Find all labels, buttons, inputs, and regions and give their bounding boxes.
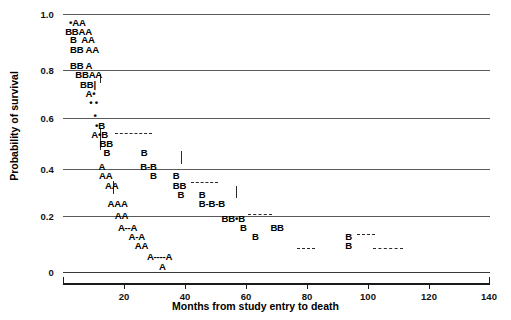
x-tick-120 xyxy=(429,283,430,289)
connector-segment xyxy=(297,248,315,249)
gridline-1.0 xyxy=(63,14,490,15)
x-axis-title: Months from study entry to death xyxy=(0,300,511,312)
connector-segment xyxy=(373,248,403,249)
connector-segment xyxy=(181,151,182,164)
data-mark: B xyxy=(104,148,111,157)
data-mark: B xyxy=(345,241,352,250)
data-mark: BB A xyxy=(70,61,92,70)
gridline-0.6 xyxy=(63,118,490,119)
y-axis-title: Probability of survival xyxy=(8,26,20,226)
data-mark: • xyxy=(94,111,97,120)
x-tick-40 xyxy=(185,283,186,289)
gridline-0.8 xyxy=(63,70,490,71)
x-axis-line xyxy=(63,283,490,285)
data-mark: AA xyxy=(135,241,148,250)
data-mark: A----A xyxy=(147,252,172,261)
data-mark: B xyxy=(141,148,148,157)
gridline-0 xyxy=(63,272,490,273)
data-mark: B xyxy=(240,223,247,232)
x-tick-20 xyxy=(124,283,125,289)
data-mark: AA xyxy=(115,211,128,220)
data-mark: B xyxy=(173,171,180,180)
x-tick-0 xyxy=(63,277,64,284)
data-mark: AAA xyxy=(108,199,128,208)
data-mark: B xyxy=(199,190,206,199)
survival-chart: 1.0 0.8 0.6 0.4 0.2 0 Probability of sur… xyxy=(0,0,511,320)
data-mark: BB AA xyxy=(70,45,99,54)
plot-area xyxy=(63,14,490,272)
data-mark: AA xyxy=(99,171,112,180)
data-mark: B-B-B xyxy=(199,199,225,208)
connector-segment xyxy=(236,186,237,198)
connector-segment xyxy=(248,214,272,215)
x-tick-100 xyxy=(368,283,369,289)
gridline-0.4 xyxy=(63,169,490,170)
x-tick-60 xyxy=(246,283,247,289)
y-tick-label-1: 1.0 xyxy=(6,9,54,20)
data-mark: • • xyxy=(89,98,98,107)
data-mark: B AA xyxy=(70,35,95,44)
x-tick-140 xyxy=(489,277,490,284)
data-mark: B xyxy=(177,190,184,199)
connector-segment xyxy=(115,133,152,134)
data-mark: BB xyxy=(270,223,283,232)
x-tick-80 xyxy=(307,283,308,289)
y-tick-label-6: 0 xyxy=(6,267,54,278)
connector-segment xyxy=(357,234,375,235)
data-mark: AA xyxy=(105,181,118,190)
data-mark: B xyxy=(150,171,157,180)
connector-segment xyxy=(191,182,218,183)
data-mark: B xyxy=(252,232,259,241)
data-mark: A xyxy=(159,262,166,271)
